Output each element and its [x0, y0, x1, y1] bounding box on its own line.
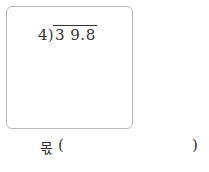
long-division: 4)3 9.8	[38, 25, 97, 44]
divisor: 4	[38, 26, 48, 44]
answer-row: 몫 ( )	[40, 137, 209, 159]
close-paren: )	[192, 136, 198, 154]
open-paren: (	[58, 136, 64, 154]
quotient-label: 몫	[40, 137, 53, 157]
dividend: 3 9.8	[53, 25, 97, 44]
